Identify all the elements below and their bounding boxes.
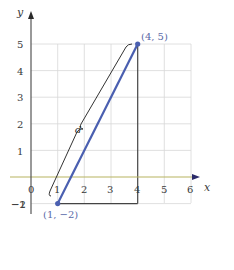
point-label-1-neg2: (1, −2) [43, 209, 78, 220]
y-tick-5: 5 [17, 39, 23, 50]
x-tick-1: 1 [54, 184, 60, 195]
point-4-5 [135, 41, 140, 46]
x-tick-0: 0 [28, 184, 34, 195]
y-tick-3: 3 [17, 92, 23, 103]
distance-brace [49, 44, 132, 196]
x-tick-5: 5 [161, 184, 167, 195]
x-tick-2: 2 [81, 184, 87, 195]
y-tick-neg2: −2 [11, 199, 26, 210]
x-axis-label: x [204, 181, 211, 194]
x-tick-4: 4 [134, 184, 140, 195]
distance-label: d [75, 124, 81, 135]
x-axis [10, 174, 200, 180]
x-tick-3: 3 [107, 184, 113, 195]
point-label-4-5: (4, 5) [141, 31, 168, 42]
y-tick-1: 1 [17, 146, 23, 157]
y-axis-label: y [16, 6, 24, 19]
x-tick-6: 6 [187, 184, 193, 195]
y-tick-4: 4 [17, 66, 23, 77]
distance-diagram: y x 0 1 2 3 4 5 6 5 4 3 2 1 −1 −2 (4, 5)… [0, 0, 234, 270]
point-1-neg2 [55, 201, 60, 206]
y-tick-2: 2 [17, 119, 23, 130]
